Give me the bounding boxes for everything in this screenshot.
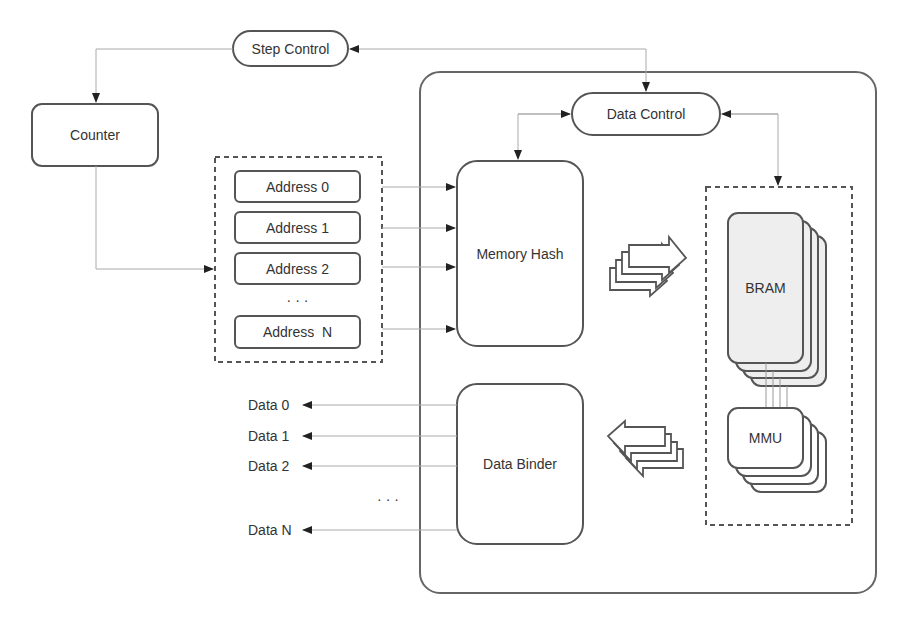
address-ellipsis: · · · xyxy=(235,290,360,310)
memory-hash-label: Memory Hash xyxy=(457,161,583,346)
mmu-label: MMU xyxy=(728,408,803,468)
data-control-label: Data Control xyxy=(572,93,720,135)
counter-label: Counter xyxy=(32,104,158,166)
address-1-label: Address 1 xyxy=(235,212,360,243)
address-2-label: Address 2 xyxy=(235,253,360,284)
data-2-label: Data 2 xyxy=(248,457,303,475)
data-control-to-memory-hash-connector xyxy=(518,114,570,159)
step-to-counter-connector xyxy=(96,49,233,102)
data-control-to-memory-group-connector xyxy=(722,114,778,185)
data-ellipsis: · · · xyxy=(370,490,406,508)
data-n-label: Data N xyxy=(248,521,303,539)
data-binder-label: Data Binder xyxy=(457,384,583,544)
write-arrows-icon xyxy=(610,237,686,296)
data-0-label: Data 0 xyxy=(248,396,303,414)
address-0-label: Address 0 xyxy=(235,171,360,202)
address-n-label: Address N xyxy=(235,316,360,348)
bram-label: BRAM xyxy=(728,213,803,363)
step-control-label: Step Control xyxy=(233,31,348,66)
counter-to-address-connector xyxy=(96,166,213,269)
read-arrows-icon xyxy=(608,421,683,476)
data-1-label: Data 1 xyxy=(248,427,303,445)
